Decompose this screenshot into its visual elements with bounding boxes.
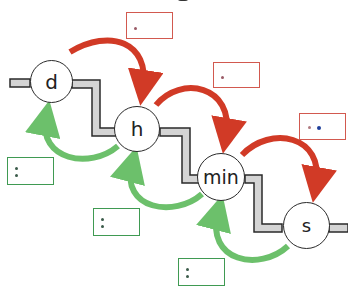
arrow-s-to-min <box>216 212 288 260</box>
box-multiply-d-to-h[interactable] <box>126 12 173 39</box>
node-d-label: d <box>45 70 58 94</box>
arrow-min-to-h <box>130 164 202 207</box>
node-h-label: h <box>131 117 144 141</box>
divide-dot-bottom <box>15 174 18 177</box>
divide-dot-top <box>186 268 189 271</box>
box-divide-h-to-d[interactable] <box>7 157 54 185</box>
unit-conversion-diagram: d h min s <box>0 0 348 288</box>
multiply-dot <box>308 126 311 129</box>
multiply-dot <box>134 27 137 30</box>
box-divide-s-to-min[interactable] <box>178 258 225 286</box>
arrow-h-to-d <box>45 118 118 159</box>
forward-arrows <box>70 40 317 185</box>
node-s: s <box>283 202 330 249</box>
node-min-label: min <box>203 166 239 188</box>
node-h: h <box>114 106 160 152</box>
multiply-dot <box>221 76 224 79</box>
divide-dot-top <box>101 218 104 221</box>
node-min: min <box>197 153 245 201</box>
node-s-label: s <box>302 215 311 236</box>
divide-dot-top <box>15 167 18 170</box>
divide-dot-bottom <box>186 275 189 278</box>
box-divide-min-to-h[interactable] <box>93 208 140 236</box>
divide-dot-bottom <box>101 225 104 228</box>
blue-dot <box>317 126 321 130</box>
box-multiply-min-to-s[interactable] <box>299 113 346 140</box>
backward-arrows <box>45 118 288 260</box>
node-d: d <box>30 60 73 103</box>
box-multiply-h-to-min[interactable] <box>213 62 260 88</box>
